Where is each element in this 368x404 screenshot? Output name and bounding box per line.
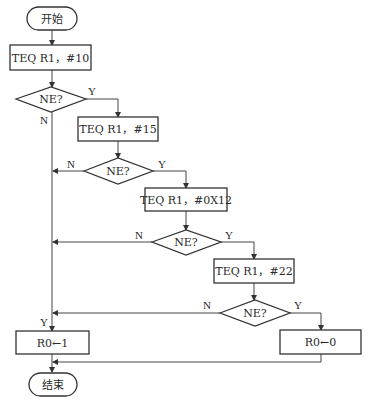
node-ne1-label: NE? [39, 93, 63, 106]
label-ne1-no: N [40, 114, 48, 126]
flowchart: 开始 TEQ R1，#10 NE? TEQ R1，#15 NE? TEQ R1，… [0, 0, 368, 404]
label-ne2-yes: Y [158, 158, 166, 170]
edge-ne4-yes [290, 313, 321, 330]
node-end: 结束 [29, 373, 77, 396]
edge-ne1-yes [86, 99, 118, 117]
node-r0-set-1: R0←1 [16, 331, 89, 354]
node-ne3-label: NE? [174, 236, 198, 249]
node-ne4: NE? [220, 300, 290, 326]
node-ne1: NE? [16, 87, 86, 112]
label-ne2-no: N [67, 158, 75, 170]
label-ne4-no: N [203, 299, 211, 311]
edge-ne3-yes [221, 242, 254, 259]
node-r0-set-0-label: R0←0 [305, 336, 337, 349]
label-ne1-yes: Y [88, 85, 96, 97]
label-ne3-yes: Y [225, 229, 233, 241]
node-ne3: NE? [152, 230, 221, 255]
node-teq15: TEQ R1，#15 [78, 117, 158, 141]
node-teq22-label: TEQ R1，#22 [215, 265, 292, 278]
edge-ne2-yes [153, 171, 186, 188]
node-r0-set-0: R0←0 [280, 330, 361, 354]
node-end-label: 结束 [42, 379, 64, 392]
node-ne2: NE? [84, 158, 153, 184]
node-r0-set-1-label: R0←1 [37, 337, 69, 350]
node-start-label: 开始 [41, 12, 63, 26]
node-teq15-label: TEQ R1，#15 [79, 123, 156, 136]
node-ne2-label: NE? [106, 165, 130, 178]
label-ne4-yes: Y [294, 299, 302, 311]
node-teq0x12: TEQ R1，#0X12 [140, 188, 232, 211]
edge-r0_0-end [53, 354, 321, 362]
label-ne3-no: N [135, 229, 143, 241]
node-start: 开始 [27, 7, 77, 30]
node-ne4-label: NE? [243, 307, 267, 320]
label-r0-set-1-yes: Y [40, 316, 48, 328]
node-teq10-label: TEQ R1，#10 [12, 52, 89, 65]
node-teq10: TEQ R1，#10 [10, 45, 91, 70]
node-teq22: TEQ R1，#22 [214, 259, 294, 283]
node-teq0x12-label: TEQ R1，#0X12 [140, 194, 232, 207]
